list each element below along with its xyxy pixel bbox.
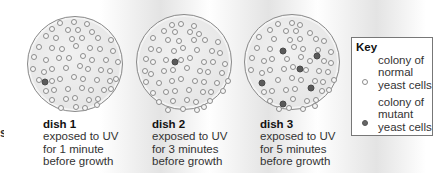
normal-colony	[267, 67, 273, 73]
normal-colony	[53, 35, 59, 41]
normal-colony	[191, 23, 197, 29]
normal-colony	[69, 36, 75, 42]
caption-line: exposed to UV	[43, 130, 118, 142]
normal-colony	[108, 37, 114, 43]
normal-colony	[312, 78, 318, 84]
mutant-colony	[172, 59, 179, 66]
normal-colony	[110, 48, 116, 54]
figure: s dish 1 exposed to UV for 1 minute befo…	[0, 0, 448, 173]
normal-colony	[217, 50, 223, 56]
normal-colony	[289, 75, 295, 81]
key-label: yeast cells	[378, 79, 432, 91]
key-label: mutant	[378, 108, 432, 120]
normal-colony	[103, 57, 109, 63]
normal-colony	[169, 22, 175, 28]
normal-colony	[88, 87, 94, 93]
normal-colony	[321, 38, 327, 44]
normal-colony	[271, 36, 277, 42]
key-label: normal	[378, 66, 432, 78]
key-entry-mutant: colony of mutant yeast cells	[378, 96, 432, 133]
key-label: colony of	[378, 54, 432, 66]
caption-title: dish 2	[152, 118, 227, 130]
normal-colony	[65, 27, 71, 33]
normal-colony	[284, 56, 290, 62]
normal-colony	[297, 22, 303, 28]
key-label: colony of	[378, 96, 432, 108]
normal-colony	[94, 77, 100, 83]
normal-colony	[143, 79, 149, 85]
normal-colony	[98, 67, 104, 73]
caption-dish1: dish 1 exposed to UV for 1 minute before…	[43, 118, 118, 167]
normal-colony	[75, 27, 81, 33]
cropped-edge-text: s	[0, 126, 4, 140]
normal-colony	[320, 79, 326, 85]
normal-colony	[82, 105, 88, 111]
normal-colony	[201, 59, 207, 65]
normal-colony	[65, 86, 71, 92]
normal-colony	[89, 57, 95, 63]
key-title: Key	[356, 41, 377, 53]
key-entry-normal: colony of normal yeast cells	[378, 54, 432, 91]
normal-colony	[85, 66, 91, 72]
mutant-colony-icon	[362, 120, 368, 126]
normal-colony	[150, 35, 156, 41]
normal-colony	[191, 37, 197, 43]
normal-colony	[186, 87, 192, 93]
normal-colony	[170, 98, 176, 104]
mutant-colony	[308, 85, 315, 92]
normal-colony	[49, 26, 55, 32]
normal-colony	[300, 46, 306, 52]
normal-colony	[169, 78, 175, 84]
normal-colony	[290, 64, 296, 70]
caption-dish2: dish 2 exposed to UV for 3 minutes befor…	[152, 118, 227, 167]
normal-colony	[303, 67, 309, 73]
normal-colony	[79, 35, 85, 41]
normal-colony	[193, 99, 199, 105]
normal-colony	[326, 87, 332, 93]
normal-colony	[225, 78, 231, 84]
normal-colony	[219, 70, 225, 76]
normal-colony	[108, 86, 114, 92]
caption-line: exposed to UV	[152, 130, 227, 142]
normal-colony	[222, 61, 228, 67]
normal-colony	[297, 36, 303, 42]
normal-colony	[172, 88, 178, 94]
normal-colony	[72, 95, 78, 101]
normal-colony	[163, 89, 169, 95]
normal-colony	[180, 106, 186, 112]
normal-colony	[101, 87, 107, 93]
normal-colony	[209, 48, 215, 54]
normal-colony	[49, 78, 55, 84]
normal-colony	[43, 88, 49, 94]
caption-line: for 3 minutes	[152, 143, 227, 155]
normal-colony	[292, 86, 298, 92]
normal-colony	[269, 88, 275, 94]
normal-colony	[66, 55, 72, 61]
normal-colony	[94, 102, 100, 108]
normal-colony	[87, 45, 93, 51]
normal-colony	[156, 80, 162, 86]
petri-dish-3	[244, 14, 340, 110]
normal-colony	[63, 65, 69, 71]
caption-line: for 5 minutes	[260, 143, 335, 155]
normal-colony	[286, 105, 292, 111]
normal-colony	[148, 71, 154, 77]
normal-colony	[43, 57, 49, 63]
normal-colony	[180, 45, 186, 51]
normal-colony	[95, 35, 101, 41]
normal-colony	[304, 98, 310, 104]
normal-colony	[210, 59, 216, 65]
normal-colony	[89, 29, 95, 35]
normal-colony	[187, 29, 193, 35]
normal-colony	[163, 57, 169, 63]
normal-colony	[313, 36, 319, 42]
normal-colony	[143, 56, 149, 62]
normal-colony	[113, 76, 119, 82]
mutant-colony	[280, 101, 287, 108]
normal-colony	[171, 48, 177, 54]
normal-colony-icon	[362, 79, 368, 85]
normal-colony	[267, 46, 273, 52]
caption-line: for 1 minute	[43, 143, 118, 155]
normal-colony	[43, 33, 49, 39]
normal-colony	[178, 21, 184, 27]
